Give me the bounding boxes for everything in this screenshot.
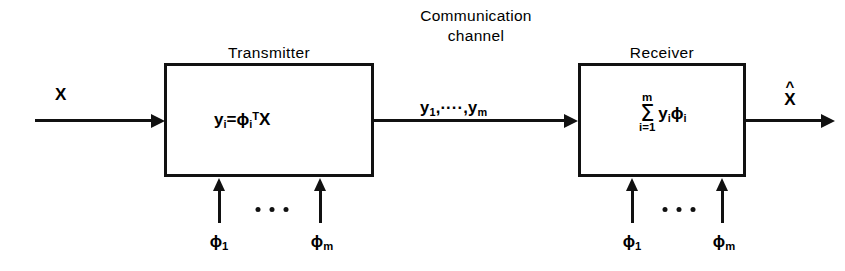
channel-title-line-2: channel xyxy=(376,26,576,46)
formula-phi: ϕ xyxy=(236,110,249,129)
transmitter-phim-arrow-line xyxy=(319,190,322,223)
channel-signal-y-first: y xyxy=(420,98,429,116)
phi-symbol: ϕ xyxy=(311,232,323,250)
receiver-phi1-arrow-head xyxy=(626,178,638,191)
phi-index: m xyxy=(725,240,735,252)
phi-symbol: ϕ xyxy=(623,232,635,250)
phi-index: 1 xyxy=(222,240,228,252)
transmitter-phi1-arrow-head xyxy=(213,178,225,191)
receiver-phim-arrow-head xyxy=(716,178,728,191)
phi-symbol: ϕ xyxy=(713,232,725,250)
summation-operator: m Σ i=1 xyxy=(639,92,655,134)
phi-index: 1 xyxy=(635,240,641,252)
input-arrow-head xyxy=(151,114,165,128)
channel-arrow-line xyxy=(374,119,566,122)
transmitter-title: Transmitter xyxy=(164,44,374,62)
transmitter-formula: yi=ϕiTX xyxy=(214,111,270,130)
transmitter-phim-arrow-head xyxy=(314,178,326,191)
output-arrow-head xyxy=(821,114,835,128)
output-signal-base: X xyxy=(775,93,805,106)
channel-title-line-1: Communication xyxy=(376,6,576,26)
receiver-phim-label: ϕm xyxy=(713,232,735,252)
transmitter-phi1-label: ϕ1 xyxy=(210,232,229,252)
receiver-phim-arrow-line xyxy=(721,190,724,223)
sigma-icon: Σ xyxy=(640,103,655,124)
channel-signal-last-index: m xyxy=(477,106,487,118)
formula-equals: = xyxy=(227,110,237,129)
transmitter-phi1-arrow-line xyxy=(218,190,221,223)
communication-channel-title: Communication channel xyxy=(376,6,576,47)
block-diagram-canvas: Communication channel Transmitter Receiv… xyxy=(0,0,845,271)
transmitter-ellipsis-dots xyxy=(256,207,289,212)
output-arrow-line xyxy=(746,119,824,122)
transmitter-phim-label: ϕm xyxy=(311,232,333,252)
input-arrow-line xyxy=(35,119,153,122)
summation-body-y: y xyxy=(658,104,667,123)
output-signal-label: ^ X xyxy=(775,81,805,106)
input-signal-label: X xyxy=(55,85,66,105)
channel-signal-y-last: y xyxy=(468,98,477,116)
summation-body-phi: ϕ xyxy=(671,104,684,123)
phi-index: m xyxy=(323,240,333,252)
channel-signal-ellipsis: ,····, xyxy=(436,98,468,116)
channel-arrow-head xyxy=(564,114,578,128)
channel-signal-label: y1,····,ym xyxy=(420,98,487,118)
receiver-phi1-label: ϕ1 xyxy=(623,232,642,252)
phi-symbol: ϕ xyxy=(210,232,222,250)
receiver-phi1-arrow-line xyxy=(631,190,634,223)
receiver-formula: m Σ i=1 yiϕi xyxy=(639,92,687,134)
summation-body: yiϕi xyxy=(658,104,686,124)
summation-lower-limit: i=1 xyxy=(639,122,655,134)
formula-x: X xyxy=(259,110,270,129)
receiver-title: Receiver xyxy=(578,44,746,62)
summation-body-phi-subscript: i xyxy=(684,112,687,124)
receiver-ellipsis-dots xyxy=(663,207,696,212)
